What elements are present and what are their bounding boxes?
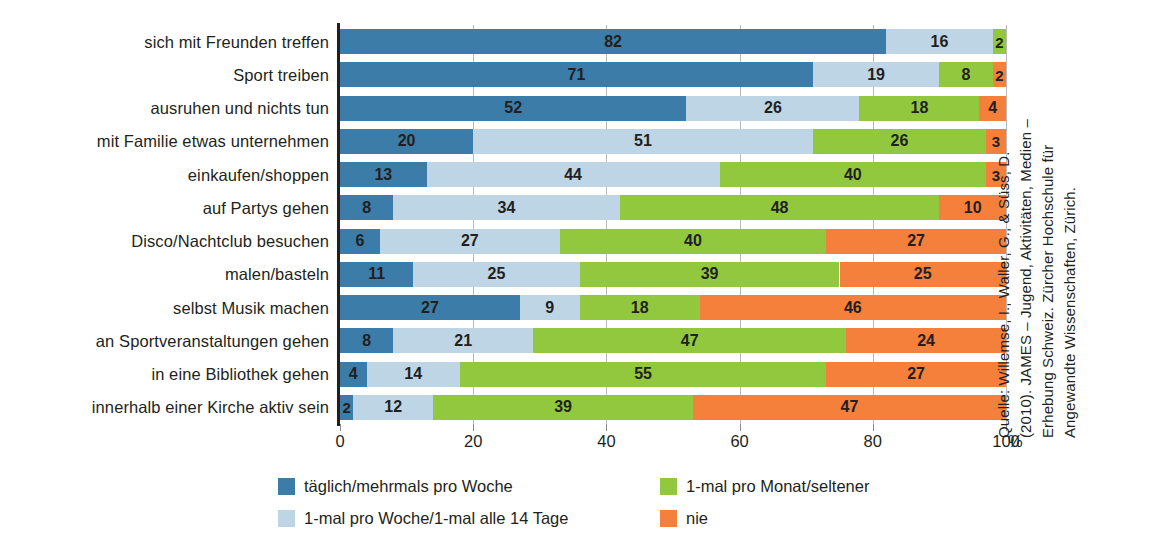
bar-segment: 25	[840, 262, 1007, 287]
source-line: Angewandte Wissenschaften, Zürich.	[1061, 187, 1078, 438]
bar-row: an Sportveranstaltungen gehen8214724	[340, 328, 1006, 353]
bar-value-label: 16	[886, 34, 993, 50]
bar-segment: 8	[340, 328, 393, 353]
bar-segment: 44	[427, 162, 720, 187]
category-label: sich mit Freunden treffen	[144, 32, 329, 51]
bar-segment: 82	[340, 29, 886, 54]
bar-value-label: 39	[580, 266, 840, 282]
bar-segment: 4	[979, 96, 1006, 121]
stacked-bar-chart: sich mit Freunden treffen82162Sport trei…	[0, 0, 1153, 553]
bar-segment: 40	[720, 162, 986, 187]
legend-swatch-icon	[278, 510, 295, 527]
bar-value-label: 2	[340, 400, 353, 415]
bar-value-label: 8	[340, 333, 393, 349]
category-label: malen/basteln	[225, 265, 329, 284]
category-label: Disco/Nachtclub besuchen	[131, 232, 329, 251]
bar-row: innerhalb einer Kirche aktiv sein2123947	[340, 395, 1006, 420]
x-axis-tick	[340, 424, 341, 431]
bar-value-label: 82	[340, 34, 886, 50]
bar-value-label: 47	[533, 333, 846, 349]
legend-item[interactable]: täglich/mehrmals pro Woche	[278, 477, 513, 496]
chart-legend: täglich/mehrmals pro Woche1-mal pro Woch…	[278, 477, 998, 539]
category-label: an Sportveranstaltungen gehen	[96, 331, 329, 350]
bar-segment: 9	[520, 295, 580, 320]
legend-item[interactable]: 1-mal pro Woche/1-mal alle 14 Tage	[278, 509, 568, 528]
bar-segment: 24	[846, 328, 1006, 353]
category-label: ausruhen und nichts tun	[151, 99, 329, 118]
bar-value-label: 46	[700, 300, 1006, 316]
bar-value-label: 39	[433, 399, 693, 415]
bar-value-label: 21	[393, 333, 533, 349]
bar-segment: 27	[826, 229, 1006, 254]
legend-item[interactable]: 1-mal pro Monat/seltener	[660, 477, 869, 496]
bar-value-label: 51	[473, 133, 813, 149]
bar-value-label: 47	[693, 399, 1006, 415]
bar-segment: 39	[580, 262, 840, 287]
bar-value-label: 2	[993, 67, 1006, 82]
bar-value-label: 4	[340, 366, 367, 382]
bar-segment: 21	[393, 328, 533, 353]
bar-row: ausruhen und nichts tun5226184	[340, 96, 1006, 121]
x-axis-tick-label: 40	[597, 432, 615, 451]
bar-row: Disco/Nachtclub besuchen6274027	[340, 229, 1006, 254]
source-line: Quelle: Willemse, I., Waller, G., & Süss…	[995, 152, 1012, 438]
x-axis-tick-label: 0	[335, 432, 344, 451]
bar-value-label: 4	[979, 100, 1006, 116]
x-axis: 020406080100	[340, 424, 1006, 454]
bar-segment: 48	[620, 195, 940, 220]
plot-area: sich mit Freunden treffen82162Sport trei…	[340, 25, 1006, 424]
bar-value-label: 27	[826, 233, 1006, 249]
category-label: einkaufen/shoppen	[188, 165, 329, 184]
bar-segment: 40	[560, 229, 826, 254]
bar-segment: 11	[340, 262, 413, 287]
source-line: Erhebung Schweiz. Zürcher Hochschule für	[1039, 145, 1056, 438]
category-label: selbst Musik machen	[173, 298, 329, 317]
bar-segment: 26	[686, 96, 859, 121]
x-axis-tick	[740, 424, 741, 431]
bar-value-label: 18	[859, 100, 979, 116]
bar-value-label: 12	[353, 399, 433, 415]
bar-segment: 55	[460, 362, 826, 387]
bar-value-label: 25	[840, 266, 1007, 282]
bar-segment: 52	[340, 96, 686, 121]
x-axis-tick	[473, 424, 474, 431]
bar-value-label: 27	[380, 233, 560, 249]
bar-value-label: 40	[720, 167, 986, 183]
bar-segment: 26	[813, 129, 986, 154]
bar-segment: 12	[353, 395, 433, 420]
category-label: Sport treiben	[233, 65, 329, 84]
bar-row: sich mit Freunden treffen82162	[340, 29, 1006, 54]
bar-value-label: 20	[340, 133, 473, 149]
bar-value-label: 8	[340, 200, 393, 216]
bar-segment: 13	[340, 162, 427, 187]
bar-row: mit Familie etwas unternehmen2051263	[340, 129, 1006, 154]
bar-value-label: 18	[580, 300, 700, 316]
category-label: mit Familie etwas unternehmen	[97, 132, 329, 151]
x-axis-tick-label: 80	[864, 432, 882, 451]
bar-segment: 27	[380, 229, 560, 254]
category-label: auf Partys gehen	[203, 198, 329, 217]
bar-value-label: 26	[813, 133, 986, 149]
bar-value-label: 2	[993, 34, 1006, 49]
source-line: (2010). JAMES – Jugend, Aktivitäten, Med…	[1017, 119, 1034, 438]
bar-segment: 47	[533, 328, 846, 353]
bar-segment: 19	[813, 62, 940, 87]
bar-segment: 2	[993, 62, 1006, 87]
legend-label: 1-mal pro Monat/seltener	[686, 477, 869, 496]
legend-item[interactable]: nie	[660, 509, 708, 528]
bar-segment: 27	[340, 295, 520, 320]
x-axis-tick-label: 60	[730, 432, 748, 451]
bar-value-label: 11	[340, 266, 413, 282]
source-note: Quelle: Willemse, I., Waller, G., & Süss…	[1012, 18, 1152, 438]
bar-value-label: 40	[560, 233, 826, 249]
bar-value-label: 13	[340, 167, 427, 183]
bar-value-label: 6	[340, 233, 380, 249]
bar-value-label: 19	[813, 67, 940, 83]
bar-segment: 18	[859, 96, 979, 121]
bar-value-label: 25	[413, 266, 580, 282]
bar-segment: 14	[367, 362, 460, 387]
category-label: innerhalb einer Kirche aktiv sein	[92, 398, 329, 417]
bar-value-label: 34	[393, 200, 619, 216]
legend-swatch-icon	[660, 510, 677, 527]
bar-segment: 8	[340, 195, 393, 220]
